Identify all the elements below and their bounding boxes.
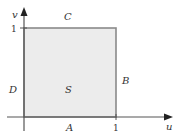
- v-axis-arrowhead-icon: [21, 7, 28, 16]
- region-s-square: [24, 28, 116, 117]
- side-label-top: C: [64, 11, 72, 22]
- u-axis-arrowhead-icon: [164, 114, 173, 121]
- uv-plane-diagram: v 1 C D S B A 1 u: [0, 0, 176, 134]
- v-axis-label: v: [12, 9, 18, 20]
- u-axis-label: u: [166, 121, 172, 132]
- side-label-right: B: [121, 75, 129, 86]
- region-label: S: [65, 84, 72, 95]
- side-label-bottom: A: [65, 122, 73, 133]
- v-tick-label: 1: [11, 24, 17, 34]
- u-tick-label: 1: [113, 123, 119, 133]
- side-label-left: D: [8, 84, 17, 95]
